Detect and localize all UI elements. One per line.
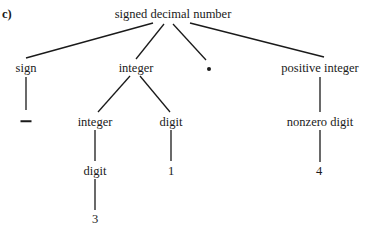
tree-edge [190,23,324,57]
node-sign: sign [16,61,37,75]
tree-edge [26,23,153,58]
node-root-signed-decimal-number: signed decimal number [115,7,232,21]
node-integer-l1: integer [119,61,154,75]
leaf-1: 1 [168,164,174,178]
node-digit-l3: digit [84,164,107,178]
node-nonzero-digit: nonzero digit [287,115,353,129]
tree-edge [140,76,170,112]
tree-edge [98,76,130,112]
node-integer-l2: integer [78,115,113,129]
tree-edge [173,24,206,60]
leaf-4: 4 [316,164,322,178]
minus-sign-icon [21,120,32,122]
panel-label: c) [2,7,12,21]
decimal-point-icon [207,67,211,71]
tree-edge [136,24,164,59]
node-digit-l2: digit [160,115,183,129]
parse-tree-figure: c) signed decimal number sign integer po… [0,0,365,232]
leaf-3: 3 [92,212,98,226]
node-positive-integer: positive integer [281,61,358,75]
